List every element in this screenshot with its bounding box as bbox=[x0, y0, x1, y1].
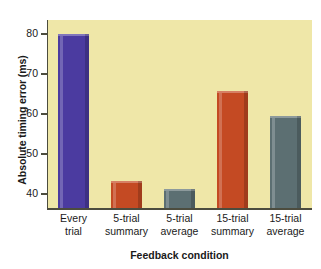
bar-highlight bbox=[272, 118, 275, 208]
x-axis-tick-label: Everytrial bbox=[47, 212, 100, 237]
bar-highlight bbox=[166, 191, 169, 208]
y-axis-tick bbox=[41, 73, 47, 75]
bar bbox=[270, 116, 301, 208]
x-axis-tick-label: 15-trialaverage bbox=[259, 212, 312, 237]
y-axis-tick-label: 70 bbox=[0, 68, 38, 79]
y-axis-tick bbox=[41, 33, 47, 35]
x-axis-tick-label-line: trial bbox=[47, 225, 100, 238]
bar-shadow bbox=[191, 189, 195, 208]
y-axis-tick-label: 50 bbox=[0, 148, 38, 159]
bar-shadow bbox=[297, 116, 301, 208]
x-axis-tick-label: 5-trialsummary bbox=[100, 212, 153, 237]
x-axis-tick-label-line: 5-trial bbox=[153, 212, 206, 225]
x-axis-tick-label-line: summary bbox=[100, 225, 153, 238]
bar bbox=[111, 181, 142, 208]
x-axis-tick-label-line: average bbox=[153, 225, 206, 238]
bar bbox=[58, 34, 89, 208]
bar-shadow bbox=[85, 34, 89, 208]
x-axis-line bbox=[47, 208, 312, 210]
x-axis-tick-label-line: average bbox=[259, 225, 312, 238]
bar-highlight bbox=[219, 93, 222, 208]
y-axis-tick bbox=[41, 193, 47, 195]
bar bbox=[164, 189, 195, 208]
x-axis-tick-label-line: Every bbox=[47, 212, 100, 225]
y-axis-tick bbox=[41, 153, 47, 155]
y-axis-title: Absolute timing error (ms) bbox=[16, 30, 28, 210]
x-axis-title: Feedback condition bbox=[47, 249, 312, 261]
bar-shadow bbox=[138, 181, 142, 208]
x-axis-tick-label: 5-trialaverage bbox=[153, 212, 206, 237]
bar-shadow bbox=[244, 91, 248, 208]
x-axis-tick-label-line: 15-trial bbox=[206, 212, 259, 225]
bar-highlight bbox=[60, 36, 63, 208]
x-axis-tick-label: 15-trialsummary bbox=[206, 212, 259, 237]
y-axis-tick-label: 80 bbox=[0, 28, 38, 39]
bar-chart-figure: Absolute timing error (ms) 4050607080 Ev… bbox=[0, 0, 321, 269]
y-axis-tick-label: 60 bbox=[0, 108, 38, 119]
bar bbox=[217, 91, 248, 208]
bar-highlight bbox=[113, 183, 116, 208]
x-axis-tick-label-line: summary bbox=[206, 225, 259, 238]
x-axis-tick-label-line: 15-trial bbox=[259, 212, 312, 225]
x-axis-tick-label-line: 5-trial bbox=[100, 212, 153, 225]
y-axis-tick bbox=[41, 113, 47, 115]
y-axis-tick-label: 40 bbox=[0, 188, 38, 199]
